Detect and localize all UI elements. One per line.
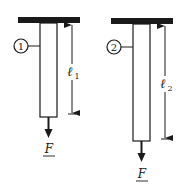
diagram-canvas: 1 ℓ 1 F 2 ℓ 2: [0, 0, 185, 193]
bar-2-number: 2: [111, 42, 117, 53]
length-subscript-2: 2: [167, 84, 172, 93]
length-label-1: ℓ: [67, 64, 73, 79]
force-label-2: F: [137, 167, 147, 181]
length-subscript-1: 1: [74, 72, 79, 81]
force-arrow-2: F: [136, 141, 148, 181]
bar-2-number-callout: 2: [107, 40, 133, 54]
length-label-2: ℓ: [160, 76, 166, 91]
force-label-1: F: [44, 142, 54, 156]
length-dimension-1: ℓ 1: [67, 25, 79, 114]
bar-2-assembly: 2 ℓ 2 F: [107, 18, 173, 181]
length-dimension-2: ℓ 2: [160, 26, 172, 139]
bar-1-number: 1: [18, 41, 24, 52]
force-arrow-1: F: [43, 117, 55, 156]
bar-2: [133, 24, 150, 141]
ceiling-support-2: [111, 18, 173, 24]
ceiling-support-1: [18, 17, 80, 23]
bar-1-number-callout: 1: [14, 39, 40, 53]
bar-1-assembly: 1 ℓ 1 F: [14, 17, 80, 156]
bar-1: [40, 23, 57, 117]
